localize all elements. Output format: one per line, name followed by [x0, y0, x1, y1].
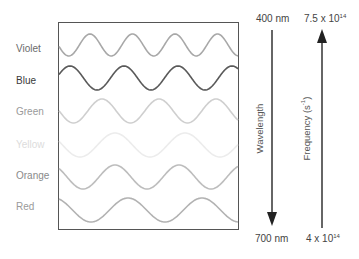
frequency-bottom-exp: 14 — [333, 233, 340, 239]
wave-yellow — [59, 133, 238, 157]
waves-group — [59, 34, 238, 222]
frequency-axis-base: Frequency (s — [301, 105, 312, 160]
color-label-green: Green — [16, 106, 44, 117]
frequency-top-label: 7.5 x 1014 — [304, 13, 346, 24]
wavelength-arrow-head — [267, 212, 277, 226]
wave-red — [59, 198, 238, 222]
frequency-top-exp: 14 — [340, 13, 347, 19]
wave-violet — [59, 34, 238, 56]
color-label-violet: Violet — [16, 43, 41, 54]
frequency-arrow-head — [317, 29, 327, 43]
color-label-blue: Blue — [16, 75, 36, 86]
color-label-orange: Orange — [16, 170, 49, 181]
frequency-axis-exp: -1 — [300, 100, 306, 105]
wave-orange — [59, 165, 238, 189]
wave-blue — [59, 66, 238, 90]
frequency-bottom-label: 4 x 1014 — [306, 233, 340, 244]
wavelength-axis-label: Wavelength — [254, 99, 265, 159]
color-label-yellow: Yellow — [16, 139, 45, 150]
frequency-axis-label: Frequency (s-1) — [300, 89, 311, 169]
wavelength-top-label: 400 nm — [256, 13, 289, 24]
frequency-bottom-base: 4 x 10 — [306, 233, 333, 244]
frequency-axis-end: ) — [301, 97, 312, 100]
color-label-red: Red — [16, 201, 34, 212]
wavelength-bottom-label: 700 nm — [255, 233, 288, 244]
wave-green — [59, 99, 238, 123]
frequency-top-base: 7.5 x 10 — [304, 13, 340, 24]
